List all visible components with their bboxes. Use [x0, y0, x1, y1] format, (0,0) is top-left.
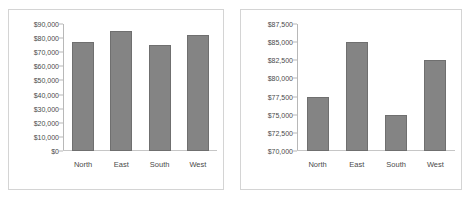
plot-area-truncated-scale: $70,000$72,500$75,000$77,500$80,000$82,5…	[241, 10, 461, 189]
y-axis-tick-mark	[59, 151, 63, 152]
y-axis-tick-mark	[59, 80, 63, 81]
bar-slot	[416, 24, 455, 151]
bar-south[interactable]	[385, 115, 407, 151]
chart-comparison-canvas: $0$10,000$20,000$30,000$40,000$50,000$60…	[0, 0, 470, 200]
bar-north[interactable]	[72, 42, 94, 151]
y-axis-tick-label: $75,000	[268, 111, 293, 118]
y-axis-tick-label: $30,000	[34, 105, 59, 112]
bar-slot	[179, 24, 217, 151]
x-axis-label-south: South	[377, 160, 416, 169]
y-axis-tick-mark	[59, 122, 63, 123]
y-axis-tick-label: $82,500	[268, 57, 293, 64]
x-axis-label-north: North	[298, 160, 337, 169]
bar-group-full-scale	[64, 24, 217, 151]
y-axis-tick-mark	[59, 24, 63, 25]
x-axis-label-west: West	[416, 160, 455, 169]
y-axis-tick-mark	[293, 42, 297, 43]
y-axis-tick-mark	[59, 108, 63, 109]
y-axis-tick-mark	[59, 38, 63, 39]
bar-west[interactable]	[187, 35, 209, 151]
chart-panel-full-scale: $0$10,000$20,000$30,000$40,000$50,000$60…	[8, 9, 224, 190]
bar-slot	[102, 24, 140, 151]
x-axis-label-south: South	[141, 160, 179, 169]
y-axis-tick-mark	[293, 96, 297, 97]
y-axis-tick-label: $72,500	[268, 129, 293, 136]
y-axis-tick-label: $70,000	[268, 148, 293, 155]
y-axis-tick-label: $85,000	[268, 39, 293, 46]
bar-west[interactable]	[424, 60, 446, 151]
y-axis-tick-label: $40,000	[34, 91, 59, 98]
y-axis-ticks-truncated-scale: $70,000$72,500$75,000$77,500$80,000$82,5…	[247, 24, 297, 151]
y-axis-tick-label: $90,000	[34, 21, 59, 28]
y-axis-tick-mark	[293, 60, 297, 61]
bar-group-truncated-scale	[298, 24, 455, 151]
y-axis-tick-label: $70,000	[34, 49, 59, 56]
y-axis-ticks-full-scale: $0$10,000$20,000$30,000$40,000$50,000$60…	[15, 24, 63, 151]
y-axis-tick-mark	[59, 52, 63, 53]
y-axis-tick-mark	[293, 132, 297, 133]
y-axis-tick-mark	[293, 78, 297, 79]
bar-slot	[298, 24, 337, 151]
y-axis-tick-label: $50,000	[34, 77, 59, 84]
bar-south[interactable]	[149, 45, 171, 151]
y-axis-tick-mark	[293, 114, 297, 115]
bar-slot	[337, 24, 376, 151]
chart-panel-truncated-scale: $70,000$72,500$75,000$77,500$80,000$82,5…	[240, 9, 462, 190]
x-axis-label-east: East	[102, 160, 140, 169]
y-axis-tick-label: $10,000	[34, 133, 59, 140]
x-axis-label-east: East	[337, 160, 376, 169]
y-axis-tick-label: $77,500	[268, 93, 293, 100]
bar-slot	[377, 24, 416, 151]
bar-slot	[141, 24, 179, 151]
y-axis-tick-mark	[59, 94, 63, 95]
y-axis-tick-label: $0	[51, 148, 59, 155]
x-axis-labels-full-scale: NorthEastSouthWest	[64, 157, 217, 171]
x-axis-labels-truncated-scale: NorthEastSouthWest	[298, 157, 455, 171]
y-axis-tick-label: $60,000	[34, 63, 59, 70]
plot-area-full-scale: $0$10,000$20,000$30,000$40,000$50,000$60…	[9, 10, 223, 189]
bar-slot	[64, 24, 102, 151]
y-axis-tick-label: $87,500	[268, 21, 293, 28]
y-axis-tick-mark	[293, 151, 297, 152]
bar-east[interactable]	[346, 42, 368, 151]
y-axis-tick-label: $80,000	[34, 35, 59, 42]
y-axis-tick-label: $80,000	[268, 75, 293, 82]
y-axis-tick-mark	[59, 136, 63, 137]
y-axis-tick-label: $20,000	[34, 119, 59, 126]
x-axis-label-north: North	[64, 160, 102, 169]
y-axis-tick-mark	[293, 24, 297, 25]
x-axis-label-west: West	[179, 160, 217, 169]
y-axis-tick-mark	[59, 66, 63, 67]
bar-north[interactable]	[307, 97, 329, 151]
bar-east[interactable]	[110, 31, 132, 151]
